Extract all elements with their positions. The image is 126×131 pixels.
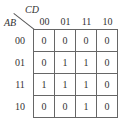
kmap-cell: 0: [55, 30, 76, 52]
kmap-row: 0 1 1 0: [34, 52, 118, 74]
row-label: 11: [10, 79, 30, 90]
kmap-cell: 0: [34, 96, 55, 118]
row-label: 10: [10, 101, 30, 112]
col-variable-label: CD: [25, 5, 39, 15]
row-variable-label: AB: [4, 18, 16, 28]
kmap-cell: 1: [76, 74, 97, 96]
kmap-cell: 0: [97, 52, 118, 74]
col-label: 00: [34, 16, 55, 27]
diagonal-divider: [13, 13, 34, 30]
kmap-cell: 1: [76, 52, 97, 74]
kmap-row: 0 0 0 0: [34, 30, 118, 52]
row-label: 00: [10, 35, 30, 46]
col-label: 11: [76, 16, 97, 27]
kmap-cell: 1: [55, 74, 76, 96]
col-label: 10: [97, 16, 118, 27]
kmap-cell: 0: [34, 30, 55, 52]
row-label: 01: [10, 57, 30, 68]
kmap-cell: 1: [76, 96, 97, 118]
col-label: 01: [55, 16, 76, 27]
kmap-cell: 0: [97, 74, 118, 96]
kmap-cell: 0: [97, 96, 118, 118]
kmap-row: 1 1 1 0: [34, 74, 118, 96]
karnaugh-map-grid: 0 0 0 0 0 1 1 0 1 1 1 0 0 0 1 0: [33, 29, 118, 118]
kmap-cell: 0: [34, 52, 55, 74]
kmap-cell: 0: [55, 96, 76, 118]
kmap-cell: 1: [55, 52, 76, 74]
kmap-cell: 1: [34, 74, 55, 96]
kmap-cell: 0: [76, 30, 97, 52]
kmap-row: 0 0 1 0: [34, 96, 118, 118]
kmap-cell: 0: [97, 30, 118, 52]
